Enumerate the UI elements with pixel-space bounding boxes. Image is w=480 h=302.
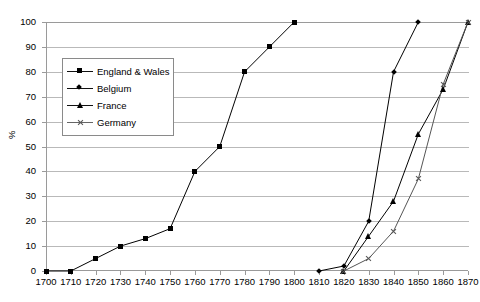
- data-point: [416, 20, 420, 24]
- square-marker: [44, 269, 49, 274]
- x-tick-mark: [468, 271, 469, 275]
- data-point: [44, 269, 49, 274]
- data-point: [340, 268, 347, 275]
- legend-entry: Belgium: [67, 80, 168, 97]
- square-marker: [192, 169, 197, 174]
- legend-label: France: [97, 100, 127, 111]
- diamond-marker: [76, 84, 82, 90]
- data-point: [440, 81, 447, 88]
- y-tick-mark: [42, 196, 46, 197]
- triangle-marker: [365, 233, 371, 239]
- x-tick-mark: [195, 271, 196, 275]
- x-tick-mark: [443, 271, 444, 275]
- y-tick-label: 0: [0, 266, 36, 276]
- x-tick-mark: [369, 271, 370, 275]
- x-marker: [440, 81, 447, 88]
- x-tick-mark: [120, 271, 121, 275]
- data-point: [465, 19, 472, 26]
- x-tick-mark: [294, 271, 295, 275]
- y-tick-mark: [42, 147, 46, 148]
- y-tick-mark: [42, 246, 46, 247]
- y-axis-title: %: [6, 131, 17, 139]
- square-marker: [168, 226, 173, 231]
- legend-label: Belgium: [97, 83, 131, 94]
- x-marker: [77, 119, 84, 126]
- x-tick-mark: [170, 271, 171, 275]
- y-tick-label: 10: [0, 241, 36, 251]
- y-tick-label: 100: [0, 17, 36, 27]
- x-tick-mark: [418, 271, 419, 275]
- line-chart: 0102030405060708090100 % 170017101720173…: [0, 0, 480, 302]
- data-point: [192, 169, 197, 174]
- square-marker: [242, 69, 247, 74]
- data-point: [118, 244, 123, 249]
- y-tick-mark: [42, 171, 46, 172]
- x-marker: [340, 268, 347, 275]
- x-tick-mark: [96, 271, 97, 275]
- x-tick-mark: [245, 271, 246, 275]
- triangle-marker: [390, 198, 396, 204]
- data-point: [292, 20, 297, 25]
- legend-label: England & Wales: [97, 66, 170, 77]
- data-point: [217, 144, 222, 149]
- data-point: [317, 269, 321, 273]
- y-tick-label: 70: [0, 92, 36, 102]
- y-tick-label: 20: [0, 216, 36, 226]
- data-point: [415, 131, 421, 137]
- y-tick-label: 60: [0, 117, 36, 127]
- square-marker: [118, 244, 123, 249]
- data-point: [392, 70, 396, 74]
- y-tick-label: 80: [0, 67, 36, 77]
- square-marker: [77, 68, 82, 73]
- y-tick-label: 30: [0, 191, 36, 201]
- legend-marker-wrap: [77, 119, 84, 126]
- x-tick-mark: [394, 271, 395, 275]
- legend-marker-wrap: [77, 68, 82, 73]
- legend-sample: [67, 83, 93, 94]
- x-marker: [415, 175, 422, 182]
- legend: England & WalesBelgiumFranceGermany: [62, 58, 174, 136]
- square-marker: [68, 269, 73, 274]
- data-point: [143, 236, 148, 241]
- data-point: [68, 269, 73, 274]
- legend-entry: Germany: [67, 114, 168, 131]
- triangle-marker: [415, 131, 421, 137]
- x-tick-mark: [269, 271, 270, 275]
- legend-entry: England & Wales: [67, 63, 168, 80]
- diamond-marker: [391, 69, 397, 75]
- legend-sample: [67, 117, 93, 128]
- x-tick-mark: [220, 271, 221, 275]
- y-tick-mark: [42, 122, 46, 123]
- data-point: [365, 233, 371, 239]
- y-tick-mark: [42, 72, 46, 73]
- legend-label: Germany: [97, 117, 136, 128]
- data-point: [415, 175, 422, 182]
- square-marker: [217, 144, 222, 149]
- y-tick-label: 90: [0, 42, 36, 52]
- y-tick-label: 50: [0, 142, 36, 152]
- x-marker: [465, 19, 472, 26]
- data-point: [365, 255, 372, 262]
- diamond-marker: [416, 19, 422, 25]
- data-point: [168, 226, 173, 231]
- x-tick-label: 1870: [448, 277, 480, 287]
- y-tick-mark: [42, 22, 46, 23]
- data-point: [390, 198, 396, 204]
- diamond-marker: [316, 268, 322, 274]
- y-axis: 0102030405060708090100: [0, 0, 480, 302]
- data-point: [390, 228, 397, 235]
- legend-marker-wrap: [77, 85, 81, 89]
- data-point: [93, 256, 98, 261]
- x-marker: [390, 228, 397, 235]
- data-point: [267, 44, 272, 49]
- y-tick-mark: [42, 97, 46, 98]
- y-tick-mark: [42, 221, 46, 222]
- triangle-marker: [77, 102, 83, 108]
- legend-entry: France: [67, 97, 168, 114]
- square-marker: [93, 256, 98, 261]
- square-marker: [267, 44, 272, 49]
- diamond-marker: [366, 218, 372, 224]
- legend-sample: [67, 100, 93, 111]
- x-tick-mark: [145, 271, 146, 275]
- y-tick-mark: [42, 47, 46, 48]
